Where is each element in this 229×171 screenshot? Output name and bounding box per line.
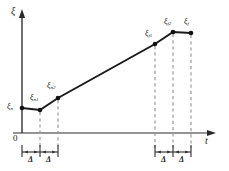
origin-label: 0 — [13, 134, 18, 143]
cap-right-a-start — [158, 151, 161, 154]
trajectory-group — [20, 30, 194, 113]
point-label-n: ξn — [7, 103, 13, 112]
point-label-n1-sub: n1 — [33, 97, 38, 102]
interval-label-left-second: Δ — [46, 156, 51, 164]
xi-vs-t-figure: ξ t 0 ξn ξn1 ξn2 ξf1 ξf2 ξf Δ Δ Δ Δ — [0, 0, 229, 171]
cap-left-b-start — [43, 151, 46, 154]
point-label-f1-sub: f1 — [148, 33, 152, 38]
cap-right-a-end — [167, 151, 170, 154]
x-axis-arrowhead — [207, 130, 216, 136]
cap-left-a-start — [25, 151, 28, 154]
y-axis-arrowhead — [19, 9, 25, 18]
point-label-n-sub: n — [10, 106, 12, 111]
point-marker-f2 — [171, 30, 176, 35]
cap-right-b-end — [185, 151, 188, 154]
cap-left-b-end — [52, 151, 55, 154]
point-label-n2: ξn2 — [47, 82, 55, 91]
point-marker-f — [189, 31, 194, 36]
point-marker-f1 — [153, 42, 158, 47]
point-label-f-sub: f — [187, 21, 188, 26]
interval-label-right-second: Δ — [179, 156, 184, 164]
x-axis-label: t — [205, 136, 208, 146]
axes-group — [13, 9, 216, 136]
interval-label-right-first: Δ — [161, 156, 166, 164]
point-label-n2-sub: n2 — [50, 85, 55, 90]
figure-canvas — [0, 0, 229, 171]
point-marker-n1 — [38, 108, 43, 113]
point-label-f2-sub: f2 — [167, 21, 171, 26]
point-label-f: ξf — [184, 18, 189, 27]
cap-right-b-start — [176, 151, 179, 154]
droplines-group — [40, 34, 191, 148]
point-label-n1: ξn1 — [30, 94, 38, 103]
cap-left-a-end — [34, 151, 37, 154]
point-marker-n2 — [56, 96, 61, 101]
point-label-f2: ξf2 — [164, 18, 171, 27]
point-label-f1: ξf1 — [145, 30, 152, 39]
point-marker-n — [20, 106, 25, 111]
y-axis-label: ξ — [11, 6, 15, 16]
interval-label-left-first: Δ — [28, 156, 33, 164]
trajectory-line — [22, 32, 191, 110]
